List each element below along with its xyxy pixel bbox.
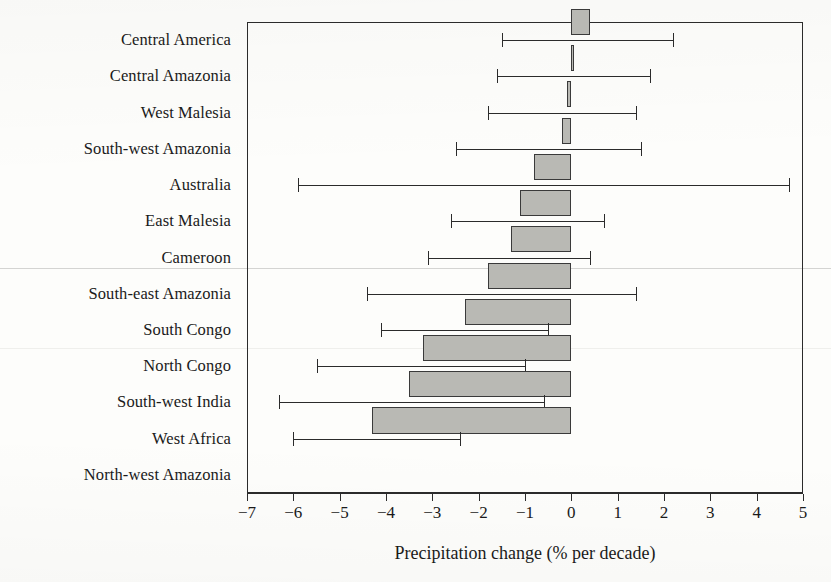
error-bar-cap bbox=[367, 287, 368, 301]
error-bar-line bbox=[488, 113, 636, 114]
error-bar-cap bbox=[590, 251, 591, 265]
x-axis-tick bbox=[479, 494, 480, 501]
error-bar-cap bbox=[279, 395, 280, 409]
bar bbox=[372, 407, 571, 433]
x-axis-title: Precipitation change (% per decade) bbox=[247, 543, 803, 564]
error-bar-cap bbox=[636, 287, 637, 301]
category-label: South Congo bbox=[143, 322, 231, 339]
error-bar-line bbox=[456, 149, 641, 150]
bar bbox=[571, 9, 590, 35]
x-axis-tick-label: −6 bbox=[284, 504, 302, 521]
bar bbox=[567, 81, 572, 107]
bar bbox=[488, 263, 571, 289]
error-bar-cap bbox=[298, 178, 299, 192]
error-bar-cap bbox=[636, 106, 637, 120]
error-bar-cap bbox=[641, 142, 642, 156]
x-axis-tick bbox=[571, 494, 572, 501]
x-axis-tick-label: −5 bbox=[331, 504, 349, 521]
x-axis-tick bbox=[664, 494, 665, 501]
bar bbox=[562, 118, 571, 144]
error-bar-cap bbox=[789, 178, 790, 192]
error-bar-line bbox=[381, 330, 548, 331]
error-bar-cap bbox=[460, 432, 461, 446]
error-bar-cap bbox=[451, 214, 452, 228]
error-bar-line bbox=[279, 402, 543, 403]
error-bar-cap bbox=[381, 323, 382, 337]
x-axis-tick-label: −3 bbox=[423, 504, 441, 521]
category-label: Central Amazonia bbox=[110, 68, 231, 85]
error-bar-cap bbox=[604, 214, 605, 228]
category-label: West Africa bbox=[152, 431, 231, 448]
category-label: North Congo bbox=[143, 358, 231, 375]
bar bbox=[465, 299, 572, 325]
x-axis-tick-label: 3 bbox=[706, 504, 715, 521]
category-label: East Malesia bbox=[145, 213, 231, 230]
x-axis-tick-label: −7 bbox=[238, 504, 256, 521]
x-axis-tick bbox=[247, 494, 248, 501]
category-label: South-east Amazonia bbox=[88, 286, 231, 303]
x-axis-tick bbox=[432, 494, 433, 501]
error-bar-line bbox=[298, 185, 789, 186]
error-bar-line bbox=[502, 40, 673, 41]
x-axis-tick bbox=[618, 494, 619, 501]
error-bar-cap bbox=[428, 251, 429, 265]
x-axis-tick-label: 2 bbox=[660, 504, 669, 521]
x-axis-tick-label: 0 bbox=[567, 504, 576, 521]
bar bbox=[423, 335, 571, 361]
category-label: Central America bbox=[121, 32, 231, 49]
precipitation-change-bar-chart: Central AmericaCentral AmazoniaWest Male… bbox=[0, 0, 831, 582]
error-bar-line bbox=[293, 439, 460, 440]
x-axis-tick-label: 5 bbox=[799, 504, 808, 521]
bar bbox=[520, 190, 571, 216]
error-bar-line bbox=[317, 366, 526, 367]
bars-and-error-bars bbox=[247, 22, 803, 493]
x-axis-tick bbox=[803, 494, 804, 501]
error-bar-cap bbox=[497, 69, 498, 83]
category-axis-labels: Central AmericaCentral AmazoniaWest Male… bbox=[0, 22, 239, 493]
error-bar-line bbox=[428, 258, 590, 259]
category-label: South-west India bbox=[117, 394, 231, 411]
x-axis-tick-label: 4 bbox=[752, 504, 761, 521]
category-label: Australia bbox=[170, 177, 231, 194]
x-axis-tick-label: −1 bbox=[516, 504, 534, 521]
category-label: North-west Amazonia bbox=[84, 467, 231, 484]
error-bar-cap bbox=[293, 432, 294, 446]
bar bbox=[511, 226, 571, 252]
x-axis-tick bbox=[757, 494, 758, 501]
bar bbox=[571, 45, 573, 71]
x-axis-tick-label: −2 bbox=[470, 504, 488, 521]
x-axis-tick bbox=[710, 494, 711, 501]
bar bbox=[409, 371, 571, 397]
error-bar-cap bbox=[502, 33, 503, 47]
x-axis: −7−6−5−4−3−2−1012345 bbox=[247, 493, 803, 494]
x-axis-tick bbox=[340, 494, 341, 501]
category-label: Cameroon bbox=[161, 250, 231, 267]
error-bar-line bbox=[497, 76, 650, 77]
error-bar-cap bbox=[650, 69, 651, 83]
x-axis-tick bbox=[386, 494, 387, 501]
error-bar-line bbox=[367, 294, 636, 295]
error-bar-cap bbox=[488, 106, 489, 120]
bar bbox=[534, 154, 571, 180]
x-axis-tick-label: −4 bbox=[377, 504, 395, 521]
category-label: South-west Amazonia bbox=[84, 141, 231, 158]
error-bar-cap bbox=[673, 33, 674, 47]
error-bar-cap bbox=[317, 359, 318, 373]
error-bar-cap bbox=[456, 142, 457, 156]
error-bar-line bbox=[451, 221, 604, 222]
x-axis-tick-label: 1 bbox=[613, 504, 622, 521]
x-axis-tick bbox=[525, 494, 526, 501]
x-axis-tick bbox=[293, 494, 294, 501]
category-label: West Malesia bbox=[141, 105, 231, 122]
